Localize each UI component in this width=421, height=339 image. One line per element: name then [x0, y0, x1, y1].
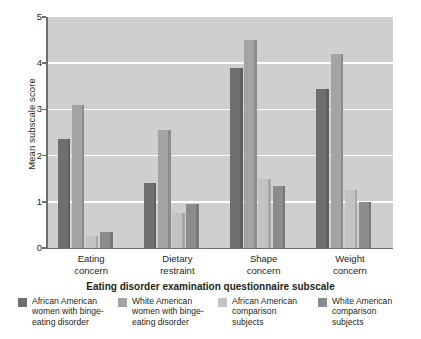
legend-item: African Americanwomen with binge-eating … [18, 296, 118, 327]
bar-shadow [68, 139, 71, 248]
x-axis-tick-label-line: Shape [221, 253, 307, 265]
x-axis-tick-label-line: Dietary [134, 253, 220, 265]
x-axis-tick-label-line: concern [221, 265, 307, 277]
bar [72, 105, 85, 248]
bar [230, 68, 243, 248]
bar [244, 40, 257, 248]
bar [258, 179, 271, 248]
x-axis-tick-label: Dietaryrestraint [134, 253, 220, 276]
y-axis-tick-label: 4 [0, 57, 42, 68]
y-axis-tick-label: 2 [0, 150, 42, 161]
chart-figure: Mean subscale score 012345 Eatingconcern… [0, 0, 421, 339]
legend-item: White Americancomparisonsubjects [318, 296, 418, 327]
bar [86, 236, 99, 248]
bar-shadow [355, 190, 358, 248]
bar-shadow [326, 89, 329, 248]
y-axis-tick-label: 5 [0, 11, 42, 22]
bar [58, 139, 71, 248]
x-axis-tick-label: Weightconcern [307, 253, 393, 276]
legend-swatch [118, 298, 127, 307]
chart-legend: African Americanwomen with binge-eating … [18, 296, 418, 327]
legend-label-line: subjects [332, 317, 392, 327]
bar-shadow [240, 68, 243, 248]
x-axis-line [46, 248, 393, 250]
y-axis-tick-mark [42, 62, 46, 64]
x-axis-tick-label: Shapeconcern [221, 253, 307, 276]
legend-label-line: eating disorder [32, 317, 104, 327]
bar [316, 89, 329, 248]
bar-group [221, 17, 307, 248]
bar [359, 202, 372, 248]
legend-swatch [318, 298, 327, 307]
x-axis-tick-label-line: Weight [307, 253, 393, 265]
y-axis-tick-label: 1 [0, 196, 42, 207]
y-axis-tick-mark [42, 16, 46, 18]
y-axis-tick-label: 3 [0, 103, 42, 114]
legend-label-line: subjects [232, 317, 297, 327]
bar-shadow [254, 40, 257, 248]
legend-label-line: White American [132, 296, 204, 306]
x-axis-tick-label-line: concern [48, 265, 134, 277]
bar-shadow [82, 105, 85, 248]
legend-label-line: White American [332, 296, 392, 306]
bar-shadow [268, 179, 271, 248]
legend-label: African Americancomparisonsubjects [232, 296, 297, 327]
bar-shadow [154, 183, 157, 248]
bar [345, 190, 358, 248]
bar-group [307, 17, 393, 248]
x-axis-tick-label: Eatingconcern [48, 253, 134, 276]
legend-label-line: eating disorder [132, 317, 204, 327]
bar [158, 130, 171, 248]
bar [331, 54, 344, 248]
y-axis-line [46, 17, 48, 249]
x-axis-tick-label-line: Eating [48, 253, 134, 265]
bar [100, 232, 113, 248]
bar-shadow [196, 204, 199, 248]
legend-label-line: African American [232, 296, 297, 306]
bar-shadow [182, 213, 185, 248]
plot-area [48, 17, 393, 248]
legend-label-line: women with binge- [32, 306, 104, 316]
legend-label-line: women with binge- [132, 306, 204, 316]
legend-label: African Americanwomen with binge-eating … [32, 296, 104, 327]
legend-label-line: comparison [232, 306, 297, 316]
legend-item: African Americancomparisonsubjects [218, 296, 318, 327]
bar-shadow [341, 54, 344, 248]
bar-group [134, 17, 220, 248]
legend-swatch [18, 298, 27, 307]
y-axis-tick-mark [42, 247, 46, 249]
legend-label: White Americancomparisonsubjects [332, 296, 392, 327]
y-axis-tick-mark [42, 155, 46, 157]
y-axis-tick-mark [42, 109, 46, 111]
bar [186, 204, 199, 248]
y-axis-tick-mark [42, 201, 46, 203]
legend-swatch [218, 298, 227, 307]
bar-shadow [96, 236, 99, 248]
bar-shadow [369, 202, 372, 248]
legend-label-line: comparison [332, 306, 392, 316]
bar-group [48, 17, 134, 248]
bar-shadow [283, 186, 286, 248]
legend-label-line: African American [32, 296, 104, 306]
x-axis-title: Eating disorder examination questionnair… [0, 281, 421, 292]
bar-shadow [168, 130, 171, 248]
x-axis-tick-label-line: restraint [134, 265, 220, 277]
legend-label: White Americanwomen with binge-eating di… [132, 296, 204, 327]
legend-item: White Americanwomen with binge-eating di… [118, 296, 218, 327]
bar-shadow [110, 232, 113, 248]
y-axis-tick-label: 0 [0, 242, 42, 253]
bar [144, 183, 157, 248]
x-axis-tick-label-line: concern [307, 265, 393, 277]
bar-series-container [48, 17, 393, 248]
bar [172, 213, 185, 248]
bar [273, 186, 286, 248]
